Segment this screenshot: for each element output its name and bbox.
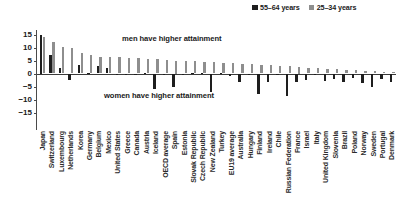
bar-young [307, 68, 309, 74]
bar-young [147, 59, 149, 74]
bar-old [238, 74, 240, 83]
x-axis-tick-label: Ireland [265, 131, 272, 153]
bar-group [292, 30, 301, 130]
x-axis-tick-label: Russian Federation [284, 131, 291, 193]
bar-old [248, 74, 250, 75]
bar-group [37, 30, 46, 130]
bar-young [166, 60, 168, 74]
x-axis-label-slot: EU19 average [226, 131, 235, 219]
x-axis-label-slot: Poland [349, 131, 358, 219]
legend-item-25-34: 25–34 years [309, 3, 357, 12]
x-axis-tick-label: Poland [350, 131, 357, 153]
x-axis-label-slot: Australia [236, 131, 245, 219]
x-axis-label-slot: New Zealand [207, 131, 216, 219]
x-axis-tick-label: Mexico [104, 131, 111, 154]
x-axis-label-slot: Canada [132, 131, 141, 219]
bar-group [264, 30, 273, 130]
bar-young [118, 57, 120, 73]
x-axis-tick-label: Italy [312, 131, 319, 144]
bar-young [298, 67, 300, 74]
x-axis-tick-label: Luxembourg [57, 131, 64, 172]
x-axis-label-slot: Sweden [368, 131, 377, 219]
x-axis-label-slot: Russian Federation [283, 131, 292, 219]
x-axis-label-slot: Hungary [245, 131, 254, 219]
bar-young [392, 72, 394, 73]
bar-group [103, 30, 112, 130]
bar-young [336, 69, 338, 73]
bar-old [295, 74, 297, 83]
bar-old [371, 74, 373, 88]
bar-young [326, 69, 328, 74]
x-axis-tick-label: Belgium [95, 131, 102, 158]
bar-old [68, 74, 70, 81]
bar-group [46, 30, 55, 130]
x-axis-tick-label: Iceland [152, 131, 159, 154]
x-axis-tick-label: Spain [171, 131, 178, 149]
x-axis-label-slot: Slovenia [330, 131, 339, 219]
bar-group [387, 30, 396, 130]
bar-young [222, 63, 224, 74]
bar-old [172, 74, 174, 87]
x-axis-tick-label: Austria [142, 131, 149, 154]
y-axis-tick-label: 0 [10, 70, 32, 78]
bar-old [163, 74, 165, 76]
bar-old [276, 74, 278, 76]
x-axis-label-slot: Ireland [264, 131, 273, 219]
bar-old [210, 74, 212, 92]
y-axis-tick-label: −5 [10, 83, 32, 91]
y-axis-tick-label: 15 [10, 31, 32, 39]
x-axis-label-slot: France [292, 131, 301, 219]
bar-young [128, 58, 130, 74]
bar-old [324, 74, 326, 82]
bar-old [305, 74, 307, 80]
bar-group [358, 30, 367, 130]
bar-group [122, 30, 131, 130]
x-axis-label-slot: Israel [302, 131, 311, 219]
y-axis-tick-label: 10 [10, 44, 32, 52]
bar-group [217, 30, 226, 130]
bar-young [203, 62, 205, 74]
bar-young [345, 70, 347, 74]
bar-group [377, 30, 386, 130]
bar-old [286, 74, 288, 96]
x-axis-tick-label: Norway [360, 131, 367, 155]
legend-label-25-34: 25–34 years [317, 3, 357, 12]
x-axis-tick-label: Portugal [379, 131, 386, 158]
bar-young [374, 71, 376, 73]
bar-old [153, 74, 155, 89]
x-axis-label-slot: Austria [141, 131, 150, 219]
x-axis-label-slot: Slovak Republic [188, 131, 197, 219]
bar-group [321, 30, 330, 130]
plot-area: 151050−5−10−15 [36, 30, 396, 130]
x-axis-tick-label: Turkey [218, 131, 225, 153]
bar-old [333, 74, 335, 80]
bar-young [355, 70, 357, 73]
y-axis-tick-label: −10 [10, 96, 32, 104]
x-axis-label-slot: Spain [169, 131, 178, 219]
bar-group [169, 30, 178, 130]
x-axis-label-slot: Mexico [103, 131, 112, 219]
x-axis-tick-label: EU19 average [227, 131, 234, 175]
bar-young [90, 55, 92, 74]
bar-young [279, 66, 281, 74]
bar-group [94, 30, 103, 130]
x-axis-tick-label: United Kingdom [322, 131, 329, 183]
bar-young [185, 61, 187, 73]
x-axis-label-slot: Finland [254, 131, 263, 219]
bar-group [368, 30, 377, 130]
x-axis-tick-label: Australia [237, 131, 244, 160]
bar-group [132, 30, 141, 130]
chart-legend: 55–64 years 25–34 years [252, 3, 356, 12]
x-axis-label-slot: Denmark [387, 131, 396, 219]
bar-group [75, 30, 84, 130]
x-axis-label-slot: Italy [311, 131, 320, 219]
x-axis-label-slot: United States [113, 131, 122, 219]
bar-old [390, 74, 392, 82]
bar-group [84, 30, 93, 130]
bar-young [99, 57, 101, 74]
legend-swatch-25-34-icon [309, 5, 315, 11]
x-axis-tick-label: Korea [76, 131, 83, 150]
x-axis-label-slot: Greece [122, 131, 131, 219]
x-axis-label-slot: Estonia [179, 131, 188, 219]
bar-young [194, 61, 196, 73]
